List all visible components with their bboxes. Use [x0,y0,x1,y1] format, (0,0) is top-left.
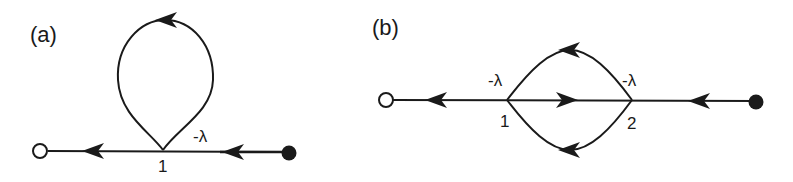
gain-label-1: -λ [488,71,503,90]
sink-node-filled [749,95,764,110]
node-1-label: 1 [500,112,509,131]
diagram-canvas: (a) 1 -λ (b) 1 2 -λ -λ [0,0,793,182]
panel-a-label: (a) [30,22,57,47]
source-node-open [379,93,393,107]
panel-b: (b) 1 2 -λ -λ [372,15,764,158]
panel-b-label: (b) [372,15,399,40]
node-2-label: 2 [627,114,636,133]
gain-label: -λ [193,127,208,146]
node-1-label: 1 [158,157,167,176]
upper-arc-edge [507,50,632,100]
lower-arc-edge [507,100,632,150]
gain-label-2: -λ [622,71,637,90]
sink-node-filled [282,146,297,161]
source-node-open [33,144,47,158]
panel-a: (a) 1 -λ [30,12,297,176]
